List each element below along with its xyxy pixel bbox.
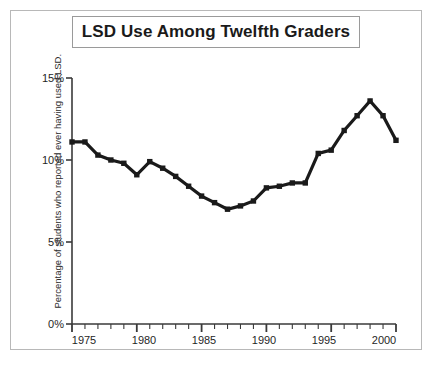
data-series-markers [69,98,398,212]
axis-lines [72,78,396,324]
data-point [121,161,126,166]
data-point [303,180,308,185]
data-point [225,207,230,212]
data-point [393,138,398,143]
data-point [367,98,372,103]
data-point [173,174,178,179]
data-point [354,113,359,118]
data-point [264,185,269,190]
data-point [95,152,100,157]
data-series-line [72,101,396,209]
data-point [82,139,87,144]
data-point [199,193,204,198]
data-point [329,147,334,152]
data-point [290,180,295,185]
chart-plot-area [0,0,434,370]
data-point [238,203,243,208]
data-point [186,184,191,189]
data-point [316,151,321,156]
y-axis-ticks [66,78,72,324]
data-point [212,200,217,205]
data-point [380,113,385,118]
data-point [134,172,139,177]
x-axis-ticks [72,324,396,332]
data-point [69,139,74,144]
data-point [147,159,152,164]
data-point [160,166,165,171]
data-point [341,128,346,133]
data-point [251,198,256,203]
data-point [108,157,113,162]
data-point [277,184,282,189]
